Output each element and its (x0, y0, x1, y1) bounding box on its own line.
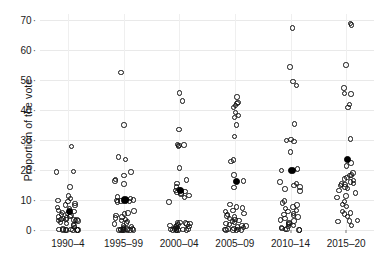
mean-marker (233, 178, 240, 185)
plot-area: 0·10·20·30·40·50·60·70·1990–41995–992000… (40, 14, 374, 230)
data-point (348, 91, 353, 96)
mean-marker (288, 167, 295, 174)
data-point (54, 169, 59, 174)
y-axis-tick-label: 40· (21, 105, 36, 116)
data-point (176, 227, 181, 232)
data-point (113, 215, 118, 220)
scatter-chart: Proportion of the vote 0·10·20·30·40·50·… (0, 0, 382, 260)
gridline-horizontal (40, 140, 374, 141)
x-axis-tick-label: 1990–4 (51, 238, 84, 249)
data-point (75, 227, 80, 232)
data-point (288, 149, 293, 154)
x-axis-tick-label: 2015–20 (327, 238, 366, 249)
data-point (284, 138, 289, 143)
gridline-horizontal (40, 110, 374, 111)
data-point (345, 105, 350, 110)
data-point (344, 163, 349, 168)
data-point (349, 22, 354, 27)
data-point (345, 186, 350, 191)
data-point (291, 223, 296, 228)
data-point (127, 227, 132, 232)
y-axis-tick-label: 10· (21, 195, 36, 206)
data-point (277, 179, 282, 184)
data-point (112, 178, 117, 183)
data-point (278, 217, 283, 222)
x-axis-tick-mark (290, 230, 291, 233)
data-point (353, 190, 358, 195)
data-point (115, 199, 120, 204)
data-point (297, 188, 302, 193)
data-point (230, 227, 235, 232)
data-point (351, 181, 356, 186)
data-point (182, 195, 187, 200)
data-point (55, 198, 60, 203)
data-point (223, 227, 228, 232)
data-point (342, 91, 347, 96)
data-point (121, 122, 126, 127)
data-point (241, 211, 246, 216)
x-axis-tick-label: 2000–04 (160, 238, 199, 249)
mean-marker (121, 196, 128, 203)
x-axis-tick-label: 2010–14 (271, 238, 310, 249)
x-axis-tick-label: 2005–09 (215, 238, 254, 249)
y-axis-tick-label: 70· (21, 15, 36, 26)
data-point (343, 62, 348, 67)
data-point (341, 85, 346, 90)
data-point (234, 94, 239, 99)
data-point (296, 227, 301, 232)
gridline-horizontal (40, 80, 374, 81)
data-point (241, 178, 246, 183)
data-point (230, 208, 235, 213)
data-point (239, 227, 244, 232)
gridline-horizontal (40, 50, 374, 51)
data-point (335, 219, 340, 224)
mean-marker (66, 208, 73, 215)
data-point (280, 200, 285, 205)
data-point (58, 220, 63, 225)
data-point (131, 208, 136, 213)
y-axis-tick-label: 60· (21, 45, 36, 56)
y-axis-tick-label: 50· (21, 75, 36, 86)
data-point (231, 185, 236, 190)
x-axis-tick-mark (346, 230, 347, 233)
data-point (67, 184, 72, 189)
data-point (112, 221, 117, 226)
y-axis-tick-label: 0· (26, 225, 36, 236)
data-point (290, 25, 295, 30)
data-point (184, 227, 189, 232)
data-point (292, 121, 297, 126)
data-point (287, 64, 292, 69)
data-point (343, 193, 348, 198)
data-point (355, 218, 360, 223)
data-point (71, 169, 76, 174)
data-point (227, 202, 232, 207)
y-axis-tick-label: 20· (21, 165, 36, 176)
y-axis-tick-label: 30· (21, 135, 36, 146)
data-point (291, 183, 296, 188)
gridline-horizontal (40, 170, 374, 171)
data-point (121, 173, 126, 178)
x-axis-tick-label: 1995–99 (104, 238, 143, 249)
data-point (240, 205, 245, 210)
data-point (279, 168, 284, 173)
data-point (232, 134, 237, 139)
data-point (69, 144, 74, 149)
data-point (349, 223, 354, 228)
data-point (181, 142, 186, 147)
data-point (180, 98, 185, 103)
data-point (60, 227, 65, 232)
gridline-horizontal (40, 200, 374, 201)
data-point (116, 154, 121, 159)
data-point (294, 83, 299, 88)
data-point (123, 157, 128, 162)
gridline-vertical (179, 14, 180, 230)
data-point (184, 177, 189, 182)
data-point (232, 115, 237, 120)
data-point (121, 181, 126, 186)
data-point (177, 90, 182, 95)
mean-marker (177, 187, 184, 194)
data-point (228, 159, 233, 164)
data-point (282, 186, 287, 191)
data-point (176, 144, 181, 149)
data-point (231, 172, 236, 177)
